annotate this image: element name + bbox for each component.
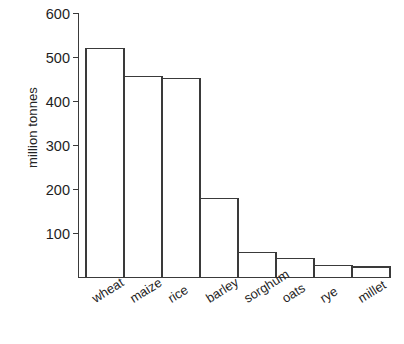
bars-group xyxy=(86,49,390,278)
bar-wheat xyxy=(86,49,124,278)
bar-rice xyxy=(162,78,200,277)
bar-chart: million tonnes 100200300400500600 wheatm… xyxy=(0,0,404,344)
bar-rye xyxy=(314,265,352,277)
bar-maize xyxy=(124,76,162,277)
bar-barley xyxy=(200,198,238,277)
bar-millet xyxy=(352,267,390,278)
